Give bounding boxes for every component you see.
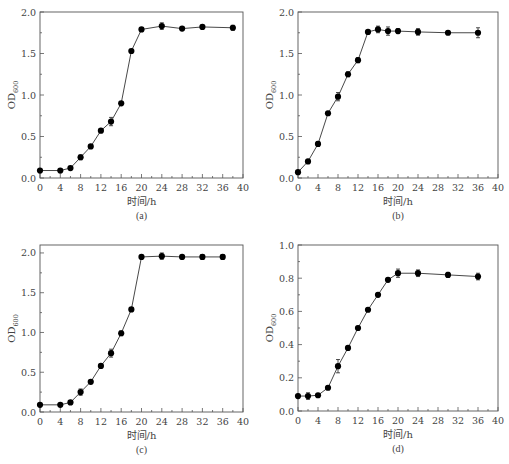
data-point [395, 270, 401, 276]
data-point [315, 392, 321, 398]
x-tick-label: 36 [217, 416, 229, 427]
data-point [159, 23, 165, 29]
x-tick-label: 20 [392, 182, 404, 193]
x-tick-label: 0 [295, 415, 301, 426]
x-axis-title: 时间/h [383, 195, 413, 207]
y-axis-title-main: OD [6, 93, 17, 109]
x-tick-label: 4 [315, 182, 321, 193]
x-tick-label: 32 [196, 416, 208, 427]
data-point [78, 389, 84, 395]
chart-panel-c: 04812162024283236400.00.51.01.52.0OD600时… [6, 245, 249, 456]
x-tick-label: 12 [352, 415, 364, 426]
plot-frame [298, 12, 498, 178]
data-point [37, 402, 43, 408]
x-tick-label: 32 [452, 415, 464, 426]
series-line [40, 256, 223, 405]
x-tick-label: 20 [392, 415, 404, 426]
data-point [345, 345, 351, 351]
panel-label: (b) [392, 210, 404, 222]
x-tick-label: 40 [492, 182, 504, 193]
chart-panel-b: 04812162024283236400.00.51.01.52.0OD600时… [264, 7, 504, 223]
x-tick-label: 16 [372, 415, 384, 426]
series-line [40, 26, 233, 170]
data-point [475, 273, 481, 279]
data-point [345, 71, 351, 77]
x-tick-label: 0 [37, 182, 43, 193]
data-point [57, 402, 63, 408]
data-point [415, 270, 421, 276]
y-axis-title-subscript: 600 [12, 81, 20, 93]
x-tick-label: 8 [78, 416, 84, 427]
data-point [138, 26, 144, 32]
chart-panel-d: 04812162024283236400.00.20.40.60.81.0OD6… [264, 240, 504, 456]
y-tick-label: 0.4 [279, 339, 294, 350]
x-tick-label: 28 [176, 182, 188, 193]
data-point [305, 158, 311, 164]
x-tick-label: 4 [315, 415, 321, 426]
x-tick-label: 8 [78, 182, 84, 193]
data-point [295, 393, 301, 399]
data-point [98, 128, 104, 134]
x-tick-label: 24 [412, 415, 424, 426]
data-point [128, 306, 134, 312]
y-tick-label: 0.0 [279, 406, 294, 417]
y-axis-title: OD600 [6, 314, 20, 343]
x-tick-label: 16 [372, 182, 384, 193]
x-tick-label: 32 [196, 182, 208, 193]
y-tick-label: 1.0 [21, 90, 36, 101]
y-tick-label: 0.8 [279, 273, 294, 284]
data-point [475, 30, 481, 36]
y-axis-title: OD600 [264, 81, 278, 110]
y-tick-label: 0.0 [21, 407, 36, 418]
y-tick-label: 1.0 [279, 240, 294, 251]
data-point [88, 143, 94, 149]
y-tick-label: 1.0 [21, 327, 36, 338]
data-point [78, 154, 84, 160]
x-tick-label: 16 [115, 182, 127, 193]
data-point [128, 48, 134, 54]
y-axis-title-main: OD [264, 93, 275, 109]
x-tick-label: 8 [335, 182, 341, 193]
series-line [298, 273, 478, 396]
x-tick-label: 12 [95, 416, 107, 427]
panel-label: (c) [136, 444, 147, 456]
x-tick-label: 24 [156, 182, 168, 193]
data-point [445, 272, 451, 278]
plot-frame [40, 12, 243, 178]
data-point [385, 28, 391, 34]
x-tick-label: 8 [335, 415, 341, 426]
x-tick-label: 32 [452, 182, 464, 193]
data-point [355, 325, 361, 331]
data-point [179, 26, 185, 32]
data-point [445, 30, 451, 36]
data-point [365, 307, 371, 313]
y-tick-label: 2.0 [279, 7, 294, 18]
chart-panel-a: 04812162024283236400.00.51.01.52.0OD600时… [6, 7, 249, 223]
data-point [199, 24, 205, 30]
y-axis-title-subscript: 600 [270, 81, 278, 93]
data-point [98, 363, 104, 369]
data-point [325, 110, 331, 116]
data-point [118, 100, 124, 106]
y-tick-label: 1.5 [21, 48, 36, 59]
y-tick-label: 2.0 [21, 7, 36, 18]
data-point [159, 253, 165, 259]
x-tick-label: 16 [115, 416, 127, 427]
data-point [335, 94, 341, 100]
x-tick-label: 36 [217, 182, 229, 193]
x-tick-label: 28 [432, 415, 444, 426]
y-tick-label: 2.0 [21, 247, 36, 258]
data-point [315, 141, 321, 147]
x-tick-label: 4 [57, 182, 63, 193]
x-tick-label: 40 [237, 182, 249, 193]
x-tick-label: 4 [57, 416, 63, 427]
data-point [37, 167, 43, 173]
x-tick-label: 12 [352, 182, 364, 193]
x-axis-title: 时间/h [127, 429, 157, 441]
data-point [138, 254, 144, 260]
data-point [385, 277, 391, 283]
data-point [118, 330, 124, 336]
y-axis-title: OD600 [6, 81, 20, 110]
x-tick-label: 24 [156, 416, 168, 427]
data-point [67, 399, 73, 405]
